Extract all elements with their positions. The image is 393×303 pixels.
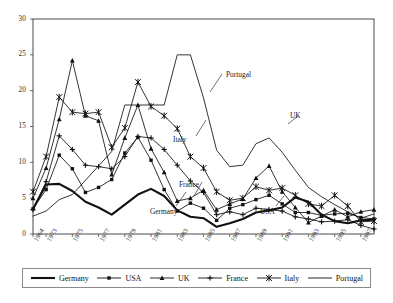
y-tick-label: 15 (6, 122, 26, 130)
legend-item-italy[interactable]: Italy (256, 273, 300, 283)
y-tick-label: 0 (6, 230, 26, 238)
legend-item-portugal[interactable]: Portugal (307, 273, 363, 283)
y-tick-label: 5 (6, 194, 26, 202)
figure-caption (8, 292, 388, 302)
legend-key-line-star (256, 273, 282, 283)
legend-label: France (226, 274, 248, 283)
legend-label: UK (178, 274, 190, 283)
line-chart-plot (0, 0, 393, 265)
legend-label: Portugal (336, 274, 363, 283)
figure-root: 051015202530 196419731975197719791981198… (0, 0, 393, 303)
legend-item-france[interactable]: France (197, 273, 248, 283)
y-tick-label: 10 (6, 158, 26, 166)
y-tick-label: 30 (6, 15, 26, 23)
legend-key-line-triangle (149, 273, 175, 283)
legend-key-line-plus (197, 273, 223, 283)
legend-label: USA (125, 274, 141, 283)
annotation-germany: Germany (150, 207, 178, 216)
legend-label: Italy (285, 274, 300, 283)
y-tick-label: 20 (6, 86, 26, 94)
legend-key-line-diamond (96, 273, 122, 283)
y-tick-label: 25 (6, 50, 26, 58)
chart-legend: GermanyUSAUKFranceItalyPortugal (22, 268, 371, 288)
legend-key-line-thick (30, 273, 56, 283)
annotation-portugal: Portugal (226, 70, 251, 79)
annotation-uk: UK (290, 111, 301, 120)
legend-key-line-plain (307, 273, 333, 283)
legend-item-usa[interactable]: USA (96, 273, 141, 283)
legend-item-germany[interactable]: Germany (30, 273, 89, 283)
annotation-italy: Italy (173, 135, 187, 144)
annotation-france: France (179, 180, 199, 189)
legend-item-uk[interactable]: UK (149, 273, 190, 283)
chart-area: 051015202530 196419731975197719791981198… (0, 0, 393, 265)
annotation-usa: USA (260, 207, 275, 216)
legend-label: Germany (59, 274, 89, 283)
